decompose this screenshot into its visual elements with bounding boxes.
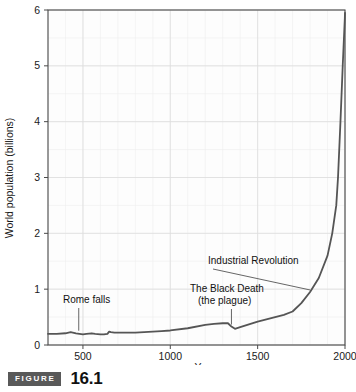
y-tick-label: 3: [34, 171, 40, 183]
x-tick-label: 1500: [246, 350, 270, 362]
y-tick-label: 2: [34, 227, 40, 239]
figure-container: 500100015002000 0123456 Year World popul…: [0, 0, 356, 392]
y-tick-label: 4: [34, 115, 40, 127]
chart-svg: 500100015002000 0123456 Year World popul…: [0, 0, 356, 365]
figure-number: 16.1: [70, 369, 102, 389]
y-tick-label: 5: [34, 59, 40, 71]
y-axis-ticks: [44, 10, 48, 345]
annotation-black-death-line1: The Black Death: [190, 283, 264, 294]
x-tick-label: 1000: [159, 350, 183, 362]
annotation-industrial-revolution: Industrial Revolution: [208, 255, 299, 266]
y-axis-title: World population (billions): [3, 118, 15, 239]
population-chart: 500100015002000 0123456 Year World popul…: [0, 0, 356, 365]
y-tick-label: 0: [34, 339, 40, 351]
y-tick-label: 6: [34, 4, 40, 16]
figure-caption: FIGURE 16.1: [8, 369, 102, 389]
x-tick-label: 500: [74, 350, 92, 362]
x-tick-label: 2000: [333, 350, 356, 362]
y-tick-label: 1: [34, 283, 40, 295]
annotation-rome-falls: Rome falls: [63, 294, 110, 305]
x-axis-ticks: [83, 345, 345, 349]
figure-badge: FIGURE: [8, 372, 61, 386]
y-tick-labels: 0123456: [34, 4, 40, 351]
annotation-black-death-line2: (the plague): [198, 295, 251, 306]
x-axis-title: Year: [194, 361, 216, 365]
